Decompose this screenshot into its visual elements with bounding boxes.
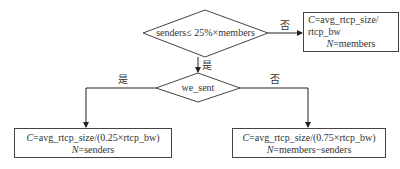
box-receivers: C=avg_rtcp_size/(0.75×rtcp_bw) N=members… <box>232 128 386 158</box>
c-expression: =avg_rtcp_size/(0.75×rtcp_bw) <box>249 132 376 143</box>
box-members: C=avg_rtcp_size/ rtcp_bw N=members <box>303 12 399 52</box>
box-senders: C=avg_rtcp_size/(0.25×rtcp_bw) N=senders <box>14 128 172 158</box>
n-variable: N <box>72 144 79 155</box>
n-expression: =members−senders <box>273 144 351 155</box>
decision1-yes-label: 是 <box>202 60 212 72</box>
decision1-no-label: 否 <box>280 20 290 32</box>
n-expression: =members <box>333 38 375 49</box>
decision2-yes-label: 是 <box>118 74 128 86</box>
c-expression: =avg_rtcp_size/ <box>315 14 379 25</box>
decision1-condition: senders≤ 25%×members <box>143 27 268 39</box>
c-expression: =avg_rtcp_size/(0.25×rtcp_bw) <box>33 132 160 143</box>
decision2-condition: we_sent <box>156 82 240 94</box>
decision2-no-label: 否 <box>270 74 280 86</box>
c-expression-cont: rtcp_bw <box>304 26 398 38</box>
n-expression: =senders <box>79 144 115 155</box>
c-variable: C <box>308 14 315 25</box>
